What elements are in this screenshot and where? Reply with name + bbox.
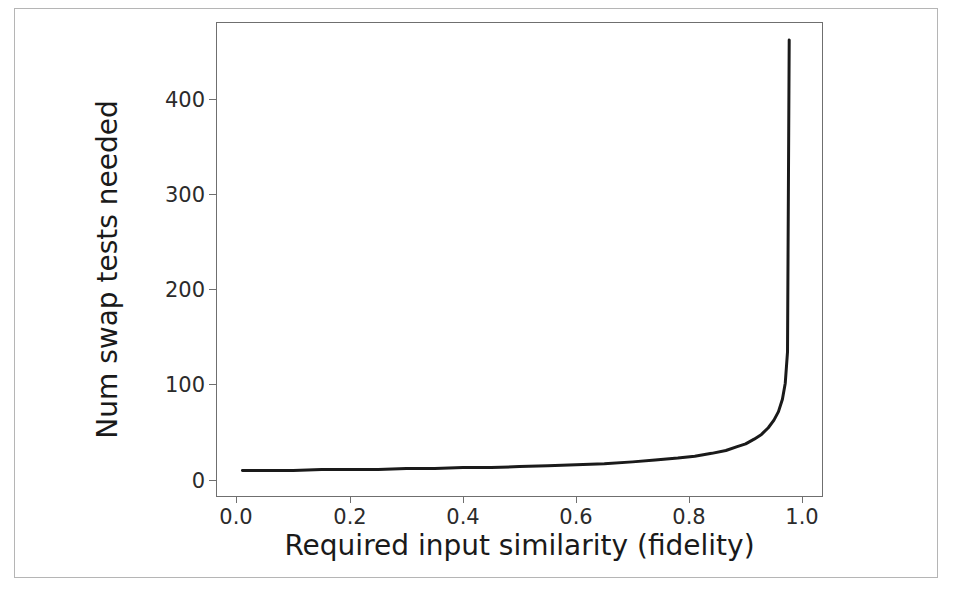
y-tick-label-200: 200 bbox=[135, 278, 205, 302]
x-axis-label: Required input similarity (fidelity) bbox=[216, 529, 823, 562]
y-tick-label-0: 0 bbox=[135, 469, 205, 493]
y-axis-label: Num swap tests needed bbox=[91, 60, 124, 480]
data-series-line bbox=[242, 40, 789, 470]
y-tick-mark-0 bbox=[209, 480, 216, 481]
y-tick-mark-100 bbox=[209, 384, 216, 385]
y-tick-mark-400 bbox=[209, 99, 216, 100]
x-tick-label-5: 1.0 bbox=[762, 505, 842, 529]
y-tick-label-100: 100 bbox=[135, 373, 205, 397]
y-tick-label-400: 400 bbox=[135, 88, 205, 112]
x-tick-label-4: 0.8 bbox=[649, 505, 729, 529]
curve-svg bbox=[217, 23, 822, 496]
x-tick-mark-3 bbox=[576, 496, 577, 503]
x-tick-label-0: 0.0 bbox=[196, 505, 276, 529]
x-tick-mark-1 bbox=[350, 496, 351, 503]
x-tick-label-3: 0.6 bbox=[536, 505, 616, 529]
x-tick-mark-2 bbox=[463, 496, 464, 503]
chart-screenshot: 0.0 0.2 0.4 0.6 0.8 1.0 400 300 200 100 … bbox=[0, 0, 954, 591]
y-tick-mark-300 bbox=[209, 194, 216, 195]
x-tick-label-1: 0.2 bbox=[310, 505, 390, 529]
y-tick-labels: 400 300 200 100 0 bbox=[131, 0, 205, 591]
x-tick-label-2: 0.4 bbox=[423, 505, 503, 529]
y-tick-label-300: 300 bbox=[135, 183, 205, 207]
x-tick-mark-4 bbox=[689, 496, 690, 503]
y-tick-mark-200 bbox=[209, 289, 216, 290]
x-tick-mark-0 bbox=[236, 496, 237, 503]
plot-area bbox=[216, 22, 823, 497]
x-tick-mark-5 bbox=[802, 496, 803, 503]
